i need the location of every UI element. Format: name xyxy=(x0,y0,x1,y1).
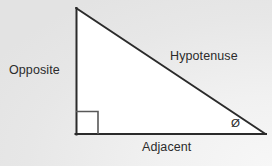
angle-symbol-label: Ø xyxy=(231,117,240,130)
label-opposite: Opposite xyxy=(9,63,60,77)
diagram-canvas: Opposite Hypotenuse Adjacent Ø xyxy=(0,0,272,166)
label-adjacent: Adjacent xyxy=(142,140,191,154)
label-hypotenuse: Hypotenuse xyxy=(170,49,238,63)
right-triangle-figure xyxy=(0,0,272,166)
